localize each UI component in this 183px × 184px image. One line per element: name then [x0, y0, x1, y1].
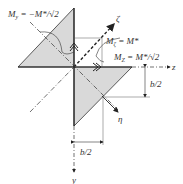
- diagram-canvas: My = −M*/√2 Mζ = M* MZ = M*/√2 z y ζ η b…: [0, 0, 183, 184]
- cross-section-diagram: My = −M*/√2 Mζ = M* MZ = M*/√2 z y ζ η b…: [0, 0, 183, 184]
- diagonal-axis: [30, 67, 74, 112]
- label-axis-z: z: [171, 62, 176, 72]
- label-axis-y: y: [71, 175, 76, 184]
- label-m-z: MZ = M*/√2: [113, 52, 160, 63]
- label-axis-zeta: ζ: [116, 14, 121, 24]
- label-dim-horizontal: b/2: [80, 147, 92, 157]
- label-m-zeta: Mζ = M*: [105, 36, 139, 48]
- label-axis-eta: η: [118, 114, 123, 124]
- label-m-y: My = −M*/√2: [7, 9, 59, 20]
- label-dim-vertical: b/2: [150, 79, 162, 89]
